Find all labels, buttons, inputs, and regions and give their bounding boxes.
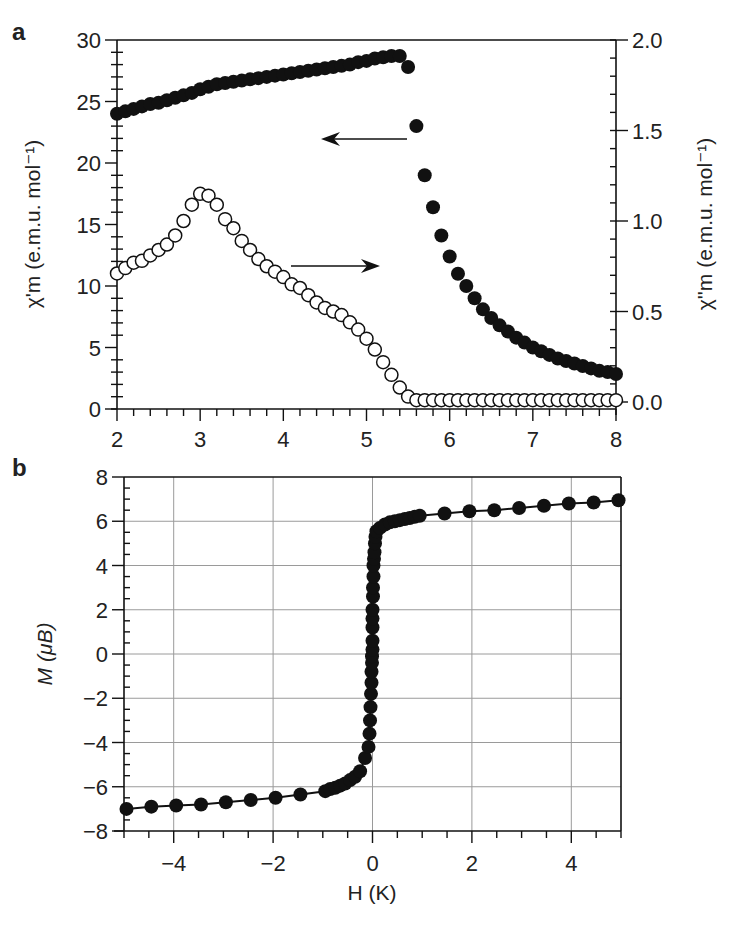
data-point	[169, 799, 183, 813]
data-point	[219, 795, 233, 809]
x-tick-label: 4	[565, 851, 577, 876]
data-point	[401, 60, 415, 74]
x-tick-label: 2	[111, 427, 123, 452]
y-right-tick-label: 2.0	[632, 28, 663, 53]
x-tick-label: 7	[527, 427, 539, 452]
x-tick-label: 5	[360, 427, 372, 452]
x-tick-label: −4	[161, 851, 186, 876]
y-tick-label: −6	[83, 775, 108, 800]
data-point	[177, 215, 190, 228]
y-axis-label-right: χ''m (e.m.u. mol⁻¹)	[693, 138, 716, 310]
figure-svg: a 23456780510152025300.00.51.01.52.0 χ'm…	[0, 0, 741, 929]
data-point	[269, 791, 283, 805]
panel-b-axes: −4−2024−8−6−4−202468	[83, 465, 621, 876]
y-tick-label: 2	[96, 598, 108, 623]
panel-a-series-chi-double-prime	[111, 187, 623, 406]
data-point	[185, 198, 198, 211]
y-right-tick-label: 0.0	[632, 390, 663, 415]
data-point	[434, 229, 448, 243]
x-tick-label: −2	[261, 851, 286, 876]
y-axis-label-left: χ'm (e.m.u. mol⁻¹)	[21, 140, 44, 308]
panel-letter-a: a	[12, 18, 26, 45]
arrow-left-icon	[321, 132, 407, 146]
data-point	[512, 501, 526, 515]
data-point	[438, 507, 452, 521]
y-left-tick-label: 30	[77, 28, 101, 53]
y-tick-label: −2	[83, 686, 108, 711]
y-tick-label: −4	[83, 731, 108, 756]
data-point	[413, 509, 427, 523]
data-point	[612, 493, 626, 507]
y-left-tick-label: 0	[89, 397, 101, 422]
panel-a-y-axis-label-right: χ''m (e.m.u. mol⁻¹)	[693, 138, 716, 310]
panel-a-y-axis-label-left: χ'm (e.m.u. mol⁻¹)	[21, 140, 44, 308]
data-point	[537, 499, 551, 513]
x-tick-label: 2	[466, 851, 478, 876]
data-point	[393, 49, 407, 63]
data-point	[119, 802, 133, 816]
y-left-tick-label: 25	[77, 90, 101, 115]
panel-b-axis-labels: M (μB)H (K)	[33, 623, 397, 904]
y-right-tick-label: 1.0	[632, 209, 663, 234]
y-tick-label: 0	[96, 642, 108, 667]
y-tick-label: 8	[96, 465, 108, 490]
x-tick-label: 3	[194, 427, 206, 452]
data-point	[409, 119, 423, 133]
data-point	[451, 267, 465, 281]
data-point	[366, 603, 380, 617]
data-point	[587, 495, 601, 509]
data-point	[468, 291, 482, 305]
data-point	[363, 713, 377, 727]
data-point	[362, 740, 376, 754]
data-point	[418, 168, 432, 182]
data-point	[487, 503, 501, 517]
data-point	[244, 793, 258, 807]
y-right-tick-label: 0.5	[632, 300, 663, 325]
x-tick-label: 4	[277, 427, 289, 452]
x-tick-label: 0	[366, 851, 378, 876]
data-point	[610, 394, 623, 407]
data-point	[364, 700, 378, 714]
data-point	[169, 229, 182, 242]
y-axis-label: M (μB)	[33, 623, 56, 686]
data-point	[562, 497, 576, 511]
y-right-tick-label: 1.5	[632, 119, 663, 144]
y-tick-label: −8	[83, 819, 108, 844]
y-tick-label: 6	[96, 509, 108, 534]
y-left-tick-label: 5	[89, 336, 101, 361]
data-point	[144, 800, 158, 814]
y-tick-label: 4	[96, 554, 108, 579]
data-point	[353, 764, 367, 778]
data-point	[293, 787, 307, 801]
data-point	[210, 198, 223, 211]
data-point	[377, 356, 390, 369]
data-point	[360, 332, 373, 345]
arrow-right-icon	[291, 259, 380, 273]
data-point	[194, 797, 208, 811]
data-point	[426, 200, 440, 214]
panel-a-susceptibility-chart: a 23456780510152025300.00.51.01.52.0 χ'm…	[12, 18, 716, 452]
data-point	[609, 367, 623, 381]
data-point	[366, 634, 380, 648]
data-point	[459, 279, 473, 293]
figure: a 23456780510152025300.00.51.01.52.0 χ'm…	[0, 0, 741, 929]
panel-a-arrows	[291, 132, 407, 273]
x-tick-label: 6	[444, 427, 456, 452]
data-point	[363, 727, 377, 741]
y-left-tick-label: 10	[77, 274, 101, 299]
panel-b-magnetization-chart: b −4−2024−8−6−4−202468 M (μB)H (K)	[12, 454, 626, 904]
y-left-tick-label: 15	[77, 213, 101, 238]
panel-letter-b: b	[12, 454, 27, 481]
data-point	[385, 368, 398, 381]
data-point	[462, 504, 476, 518]
data-point	[443, 249, 457, 263]
data-point	[368, 343, 381, 356]
data-point	[227, 222, 240, 235]
x-tick-label: 8	[610, 427, 622, 452]
x-axis-label: H (K)	[348, 881, 397, 904]
y-left-tick-label: 20	[77, 151, 101, 176]
